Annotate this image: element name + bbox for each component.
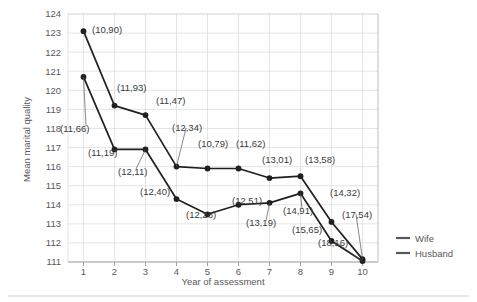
- x-tick-label: 4: [174, 266, 179, 277]
- y-tick-label: 121: [45, 66, 61, 77]
- y-tick-label: 118: [46, 123, 61, 134]
- point-value-label: (12,34): [172, 122, 202, 133]
- x-tick-label: 3: [143, 266, 148, 277]
- point-value-label: (13,01): [262, 154, 292, 165]
- x-tick-label: 7: [267, 266, 272, 277]
- y-axis-title: Mean marital quality: [21, 97, 32, 182]
- point-value-label: (11,62): [236, 138, 265, 149]
- point-value-label: (14,91): [283, 205, 313, 216]
- y-tick-label: 111: [47, 256, 61, 267]
- y-tick-label: 113: [46, 218, 61, 229]
- chart-figure: 1111121131141151161171181191201211221231…: [0, 0, 477, 302]
- x-tick-label: 9: [329, 266, 334, 277]
- x-tick-label: 10: [357, 266, 368, 277]
- point-value-label: (11,19): [88, 147, 117, 158]
- y-tick-label: 114: [46, 199, 61, 210]
- point-value-label: (17,54): [342, 209, 372, 220]
- data-point-wife-7: [267, 175, 273, 181]
- data-point-wife-9: [329, 219, 335, 225]
- x-tick-label: 2: [112, 266, 117, 277]
- y-tick-label: 116: [46, 161, 61, 172]
- data-point-wife-5: [205, 166, 211, 172]
- point-value-label: (14,32): [330, 187, 360, 198]
- point-value-label: (18,16): [318, 237, 348, 248]
- y-tick-labels: 1111121131141151161171181191201211221231…: [45, 8, 61, 267]
- data-point-wife-2: [112, 103, 118, 109]
- point-value-label: (13,58): [305, 154, 335, 165]
- x-tick-label: 8: [298, 266, 303, 277]
- x-axis-title: Year of assessment: [181, 276, 264, 287]
- y-tick-label: 120: [45, 85, 61, 96]
- y-tick-label: 115: [46, 180, 61, 191]
- legend-label-wife: Wife: [415, 233, 434, 244]
- data-point-wife-1: [81, 28, 87, 34]
- x-tick-label: 1: [81, 266, 86, 277]
- data-point-wife-8: [298, 173, 304, 179]
- legend-label-husband: Husband: [415, 248, 453, 259]
- annotation-leader-line: [84, 77, 87, 126]
- point-value-label: (12,51): [232, 195, 262, 206]
- y-tick-label: 117: [46, 142, 61, 153]
- point-value-label: (12,11): [118, 166, 147, 177]
- y-tick-label: 122: [45, 47, 61, 58]
- data-point-wife-3: [143, 112, 149, 118]
- point-value-label: (13,19): [246, 217, 276, 228]
- y-tick-label: 124: [45, 8, 61, 19]
- data-point-husband-4: [174, 196, 180, 202]
- point-value-label: (11,66): [60, 123, 89, 134]
- point-value-label: (12,28): [186, 209, 216, 220]
- chart-legend: Wife Husband: [396, 233, 453, 259]
- point-value-label: (10,90): [92, 24, 122, 35]
- line-chart-svg: 1111121131141151161171181191201211221231…: [0, 0, 477, 302]
- x-tick-marks: [84, 262, 363, 266]
- point-value-label: (11,93): [117, 82, 146, 93]
- point-value-label: (15,65): [292, 224, 322, 235]
- point-value-labels: (10,90)(11,93)(11,47)(12,34)(10,79)(11,6…: [60, 24, 372, 248]
- point-value-label: (10,79): [198, 138, 228, 149]
- point-value-label: (11,47): [156, 95, 185, 106]
- y-tick-label: 123: [45, 27, 61, 38]
- data-point-wife-6: [236, 166, 242, 172]
- point-value-label: (12,40): [140, 186, 170, 197]
- y-tick-label: 112: [46, 237, 61, 248]
- y-tick-label: 119: [46, 104, 61, 115]
